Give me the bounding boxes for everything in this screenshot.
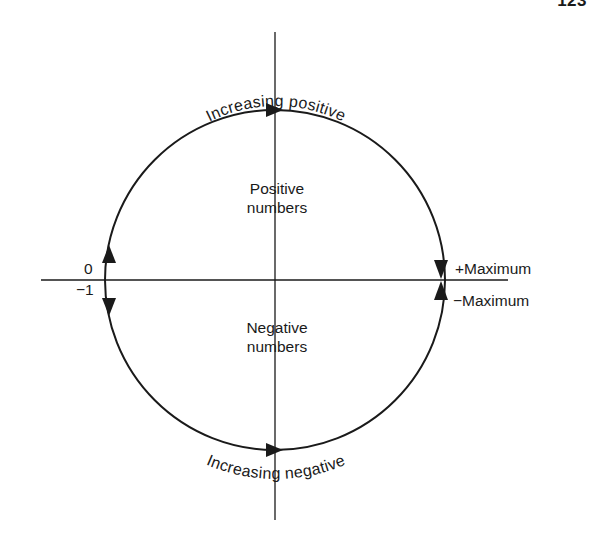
zero-label: 0 — [84, 259, 93, 278]
negative-numbers-label: Negative numbers — [217, 318, 337, 356]
arc-label-top: Increasing positive — [203, 92, 349, 124]
positive-numbers-label: Positive numbers — [217, 179, 337, 217]
minus-maximum-label: −Maximum — [453, 291, 529, 310]
positive-label-line2: numbers — [217, 198, 337, 217]
plus-maximum-label: +Maximum — [455, 259, 531, 278]
arrow-left-up-icon — [102, 245, 116, 263]
arrow-left-down-icon — [102, 298, 116, 316]
minus-one-label: −1 — [76, 280, 94, 299]
arc-label-bottom: Increasing negative — [205, 451, 348, 482]
positive-label-line1: Positive — [217, 179, 337, 198]
negative-label-line1: Negative — [217, 318, 337, 337]
negative-label-line2: numbers — [217, 337, 337, 356]
